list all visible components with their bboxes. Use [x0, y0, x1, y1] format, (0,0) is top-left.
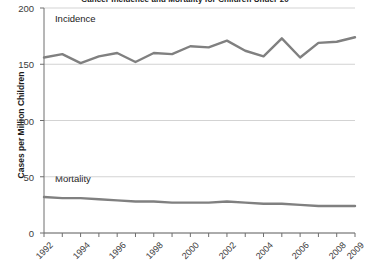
series-line-incidence: [44, 37, 355, 63]
series-line-mortality: [44, 197, 355, 206]
plot-area: [0, 0, 370, 268]
chart-container: Cancer Incidence and Mortality for Child…: [0, 0, 370, 268]
